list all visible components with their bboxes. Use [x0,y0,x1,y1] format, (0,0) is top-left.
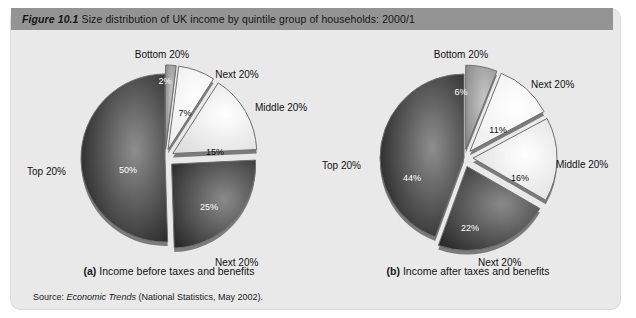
source-prefix: Source: [33,292,67,302]
pie-slice-value: 25% [200,202,218,212]
pie-slice-value: 15% [206,147,224,157]
panel-a-caption-text: Income before taxes and benefits [99,265,254,277]
chart-panel-b: 6%11%16%22%44%Bottom 20%Next 20%Middle 2… [318,43,618,273]
chart-panel-a: 2%7%15%25%50%Bottom 20%Next 20%Middle 20… [19,43,319,273]
pie-category-label: Middle 20% [556,159,608,170]
pie-slice-value: 6% [454,87,467,97]
pie-slice-value: 50% [119,165,137,175]
pie-slice[interactable] [81,74,168,242]
panel-b-caption-text: Income after taxes and benefits [403,265,550,277]
pie-slice-value: 11% [489,125,506,135]
pie-category-label: Bottom 20% [434,49,489,60]
panel-a-caption: (a) Income before taxes and benefits [19,265,319,277]
figure-title-text: Size distribution of UK income by quinti… [82,13,415,25]
panel-b-letter: (b) [387,265,400,277]
source-details: (National Statistics, May 2002). [136,292,263,302]
pie-category-label: Next 20% [215,69,258,80]
pie-chart-after-taxes: 6%11%16%22%44%Bottom 20%Next 20%Middle 2… [318,43,618,273]
pie-slice-value: 7% [178,108,191,118]
source-publication: Economic Trends [67,292,136,302]
pie-category-label: Next 20% [531,79,574,90]
pie-category-label: Top 20% [27,166,66,177]
panel-b-caption: (b) Income after taxes and benefits [318,265,618,277]
figure-number: Figure 10.1 [22,13,79,25]
pie-slice-value: 44% [403,173,421,183]
pie-slice-value: 22% [461,223,479,233]
pie-category-label: Bottom 20% [135,49,190,60]
page-title: Figure 10.1 Size distribution of UK inco… [22,13,415,25]
figure-title-bar: Figure 10.1 Size distribution of UK inco… [11,8,613,30]
pie-slice-value: 16% [511,173,529,183]
source-note: Source: Economic Trends (National Statis… [33,292,263,302]
pie-slice-value: 2% [158,76,171,86]
pie-category-label: Top 20% [322,160,361,171]
pie-chart-before-taxes: 2%7%15%25%50%Bottom 20%Next 20%Middle 20… [19,43,319,273]
figure-container: 2%7%15%25%50%Bottom 20%Next 20%Middle 20… [11,9,620,309]
panel-a-letter: (a) [83,265,96,277]
pie-category-label: Middle 20% [255,102,307,113]
